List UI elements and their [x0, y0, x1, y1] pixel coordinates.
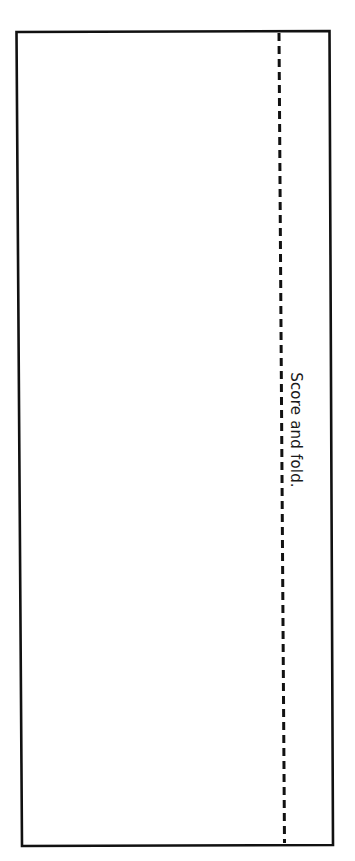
cut-border [17, 31, 334, 846]
fold-line-dashed [279, 33, 285, 843]
template-sheet: Score and fold. [0, 0, 355, 861]
fold-instruction-label: Score and fold. [287, 372, 305, 488]
